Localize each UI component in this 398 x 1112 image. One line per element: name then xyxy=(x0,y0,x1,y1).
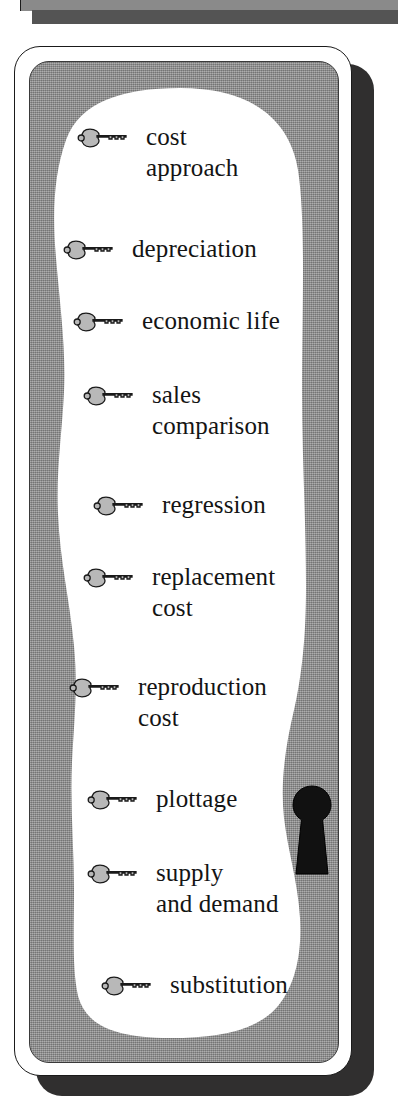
key-icon xyxy=(86,788,144,816)
term-label: replacement cost xyxy=(152,562,275,623)
list-item[interactable]: sales comparison xyxy=(82,380,270,441)
term-label: reproduction cost xyxy=(138,672,267,733)
key-icon xyxy=(76,126,134,154)
term-label: sales comparison xyxy=(152,380,270,441)
partial-card-above xyxy=(0,0,398,34)
list-item[interactable]: cost approach xyxy=(76,122,238,183)
term-label: regression xyxy=(162,490,266,521)
list-item[interactable]: supply and demand xyxy=(86,858,278,919)
list-item[interactable]: depreciation xyxy=(62,234,257,266)
term-label: supply and demand xyxy=(156,858,278,919)
key-icon xyxy=(82,384,140,412)
key-icon xyxy=(86,862,144,890)
key-terms-list: cost approach depreciation xyxy=(30,62,339,1063)
key-icon xyxy=(100,974,158,1002)
list-item[interactable]: economic life xyxy=(72,306,280,338)
key-icon xyxy=(92,494,150,522)
list-item[interactable]: reproduction cost xyxy=(68,672,267,733)
key-icon xyxy=(82,566,140,594)
term-label: economic life xyxy=(142,306,280,337)
list-item[interactable]: replacement cost xyxy=(82,562,275,623)
card-gray-panel: cost approach depreciation xyxy=(29,61,339,1063)
keyhole-icon xyxy=(284,780,339,884)
term-label: cost approach xyxy=(146,122,238,183)
key-icon xyxy=(68,676,126,704)
list-item[interactable]: regression xyxy=(92,490,266,522)
list-item[interactable]: substitution xyxy=(100,970,288,1002)
term-label: substitution xyxy=(170,970,288,1001)
key-icon xyxy=(62,238,120,266)
partial-card-shadow xyxy=(32,10,398,24)
key-icon xyxy=(72,310,130,338)
list-item[interactable]: plottage xyxy=(86,784,237,816)
term-label: depreciation xyxy=(132,234,257,265)
key-terms-card: cost approach depreciation xyxy=(14,46,364,1090)
term-label: plottage xyxy=(156,784,237,815)
card-outer-frame: cost approach depreciation xyxy=(14,46,352,1076)
